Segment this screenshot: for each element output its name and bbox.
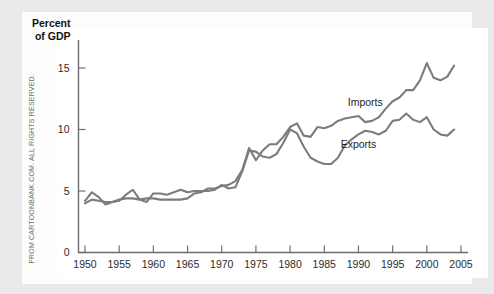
x-tick-label: 1980 [278, 258, 302, 270]
y-tick-label: 10 [58, 123, 70, 135]
x-tick-label: 1965 [176, 258, 200, 270]
x-tick-label: 1950 [73, 258, 97, 270]
y-tick-label: 0 [64, 246, 70, 258]
data-series [85, 63, 454, 204]
x-tick-label: 2005 [449, 258, 473, 270]
axis-tick-labels: 0510151950195519601965197019751980198519… [58, 62, 473, 270]
y-tick-label: 15 [58, 62, 70, 74]
x-tick-label: 1995 [381, 258, 405, 270]
y-tick-label: 5 [64, 185, 70, 197]
page-background: FROM CARTOONBANK.COM. ALL RIGHTS RESERVE… [0, 0, 494, 294]
series-label-exports: Exports [341, 138, 377, 150]
x-tick-label: 2000 [415, 258, 439, 270]
x-tick-label: 1985 [313, 258, 337, 270]
chart-container: 0510151950195519601965197019751980198519… [0, 0, 494, 294]
axis-ticks [79, 68, 462, 253]
series-line-exports [85, 114, 454, 205]
x-tick-label: 1960 [142, 258, 166, 270]
x-tick-label: 1970 [210, 258, 234, 270]
x-tick-label: 1955 [108, 258, 132, 270]
x-tick-label: 1990 [347, 258, 371, 270]
axis-lines [79, 40, 469, 253]
series-label-imports: Imports [348, 96, 383, 108]
series-annotations: ImportsExports [341, 96, 383, 150]
axes [79, 40, 469, 253]
x-tick-label: 1975 [244, 258, 268, 270]
series-line-imports [85, 63, 454, 203]
y-axis-title-line: of GDP [35, 30, 71, 42]
y-axis-title: Percentof GDP [32, 17, 71, 42]
line-chart: 0510151950195519601965197019751980198519… [0, 0, 494, 294]
y-axis-title-line: Percent [32, 17, 71, 29]
